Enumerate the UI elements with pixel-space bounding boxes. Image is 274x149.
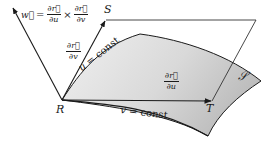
partial-u-fraction: ∂r⃗ ∂u xyxy=(47,5,62,24)
point-label-s: S xyxy=(104,4,112,15)
w-symbol: w⃗ xyxy=(21,10,34,20)
surface-patch xyxy=(62,34,261,136)
tangent-plane-diagram: w⃗ = ∂r⃗ ∂u × ∂r⃗ ∂v S ∂r⃗ ∂v u = const … xyxy=(0,0,274,149)
partial-v-label: ∂r⃗ ∂v xyxy=(66,42,81,61)
normal-vector-formula: w⃗ = ∂r⃗ ∂u × ∂r⃗ ∂v xyxy=(21,5,88,24)
cross-product-sign: × xyxy=(63,9,71,20)
partial-u-label: ∂r⃗ ∂u xyxy=(164,72,179,91)
point-label-r: R xyxy=(56,104,64,115)
equals-sign: = xyxy=(36,9,44,20)
surface-label: 𝒮 xyxy=(238,70,247,82)
partial-v-fraction: ∂r⃗ ∂v xyxy=(74,5,89,24)
point-label-t: T xyxy=(206,103,213,114)
